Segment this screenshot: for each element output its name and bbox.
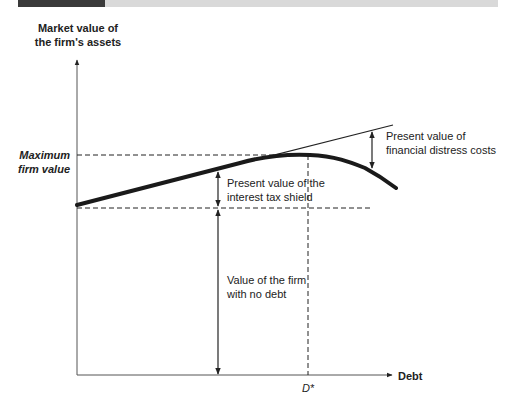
tax-shield-label-line2: interest tax shield xyxy=(227,191,313,203)
no-debt-label-line2: with no debt xyxy=(226,288,286,300)
tradeoff-diagram: Market value of the firm's assets Maximu… xyxy=(0,0,513,408)
distress-label-line2: financial distress costs xyxy=(386,144,497,156)
tax-shield-label-line1: Present value of the xyxy=(227,177,325,189)
max-value-label-line2: firm value xyxy=(18,163,70,175)
no-debt-label-line1: Value of the firm xyxy=(227,274,306,286)
max-value-label-line1: Maximum xyxy=(19,149,70,161)
y-axis-label-line1: Market value of xyxy=(38,22,118,34)
d-star-label: D* xyxy=(302,382,315,394)
x-axis-label: Debt xyxy=(398,370,423,382)
y-axis-label-line2: the firm's assets xyxy=(35,36,121,48)
distress-label-line1: Present value of xyxy=(386,130,466,142)
